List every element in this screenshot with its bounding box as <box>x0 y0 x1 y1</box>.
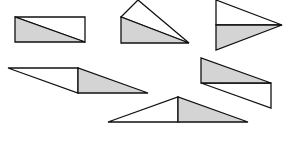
shaded-triangle <box>78 68 148 93</box>
shaded-triangle <box>216 25 282 50</box>
figure-isosceles-triangle <box>108 97 248 122</box>
figure-parallelogram-right <box>201 58 271 108</box>
triangle-figures-diagram <box>0 0 283 150</box>
blank-triangle <box>201 83 271 108</box>
figure-kite-like-quad <box>121 0 189 43</box>
figure-arrowhead-triangle <box>216 0 282 50</box>
blank-triangle <box>108 97 178 122</box>
blank-triangle <box>216 0 282 25</box>
shaded-triangle <box>178 97 248 122</box>
shaded-triangle <box>201 58 271 83</box>
blank-triangle <box>8 68 78 93</box>
figure-rectangle <box>15 17 85 42</box>
figure-parallelogram-left <box>8 68 148 93</box>
